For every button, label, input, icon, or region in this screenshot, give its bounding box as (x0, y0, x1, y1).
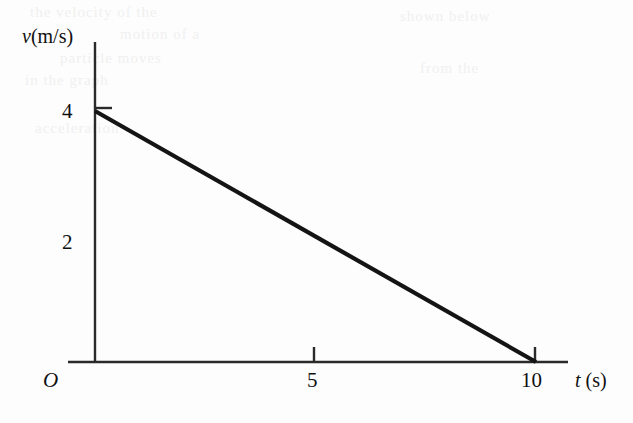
y-tick-label-4: 4 (62, 101, 73, 122)
y-tick-label-2: 2 (62, 232, 73, 253)
x-tick-label-5: 5 (307, 370, 318, 391)
figure-canvas: the velocity of the motion of a particle… (0, 0, 633, 423)
y-axis-title-unit: (m/s) (31, 25, 73, 47)
velocity-time-plot (0, 0, 633, 423)
x-axis-title-unit: (s) (581, 369, 607, 391)
data-line-velocity (95, 111, 536, 362)
y-axis-title-variable: v (22, 25, 31, 47)
x-axis-title: t (s) (575, 370, 607, 390)
x-tick-label-10: 10 (521, 370, 542, 391)
y-axis-title: v(m/s) (22, 26, 73, 46)
origin-label: O (43, 370, 58, 391)
